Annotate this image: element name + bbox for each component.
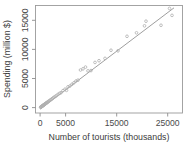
x-tick-label-15000: 15000 <box>105 118 129 128</box>
x-tick-label-0: 0 <box>38 118 43 128</box>
y-axis-title: Spending (million $) <box>2 20 12 98</box>
x-tick-label-25000: 25000 <box>156 118 180 128</box>
x-tick-labels: 0 5000 15000 25000 <box>38 118 180 128</box>
x-tick-label-5000: 5000 <box>56 118 75 128</box>
y-tick-label-10000: 10000 <box>20 37 30 61</box>
y-tick-label-15000: 15000 <box>20 8 30 32</box>
x-axis-title: Number of tourists (thousands) <box>49 132 170 142</box>
y-tick-label-0: 0 <box>20 105 30 110</box>
scatter-plot-figure: 0 5000 15000 25000 0 5000 10000 15000 Nu… <box>0 0 191 152</box>
plot-canvas: 0 5000 15000 25000 0 5000 10000 15000 Nu… <box>0 0 191 152</box>
y-tick-label-5000: 5000 <box>20 69 30 88</box>
